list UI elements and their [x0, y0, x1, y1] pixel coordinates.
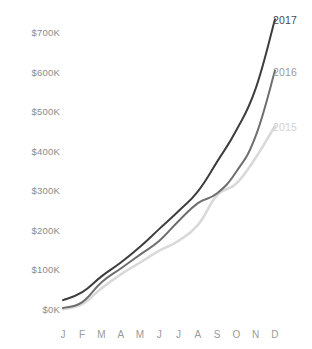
x-axis-tick-8: S — [210, 330, 224, 340]
y-axis-tick-300k: $300K — [8, 186, 60, 196]
chart-plot-area — [0, 0, 312, 349]
x-axis-tick-5: J — [152, 330, 166, 340]
x-axis-tick-3: A — [114, 330, 128, 340]
y-axis-tick-600k: $600K — [8, 68, 60, 78]
y-axis-tick-100k: $100K — [8, 265, 60, 275]
x-axis-tick-6: J — [172, 330, 186, 340]
y-axis-tick-400k: $400K — [8, 147, 60, 157]
series-line-2016 — [63, 71, 275, 308]
y-axis-tick-200k: $200K — [8, 226, 60, 236]
x-axis-tick-10: N — [249, 330, 263, 340]
line-chart: $0K$100K$200K$300K$400K$500K$600K$700K J… — [0, 0, 312, 349]
x-axis-tick-2: M — [95, 330, 109, 340]
x-axis-tick-0: J — [56, 330, 70, 340]
x-axis-tick-4: M — [133, 330, 147, 340]
series-label-2015: 2015 — [273, 122, 297, 133]
series-line-2017 — [63, 19, 275, 300]
series-label-2017: 2017 — [273, 15, 297, 26]
y-axis-tick-0k: $0K — [8, 305, 60, 315]
y-axis-tick-700k: $700K — [8, 28, 60, 38]
series-label-2016: 2016 — [273, 67, 297, 78]
x-axis-tick-7: A — [191, 330, 205, 340]
x-axis-tick-9: O — [229, 330, 243, 340]
x-axis-tick-11: D — [268, 330, 282, 340]
x-axis-tick-1: F — [75, 330, 89, 340]
y-axis-tick-500k: $500K — [8, 107, 60, 117]
